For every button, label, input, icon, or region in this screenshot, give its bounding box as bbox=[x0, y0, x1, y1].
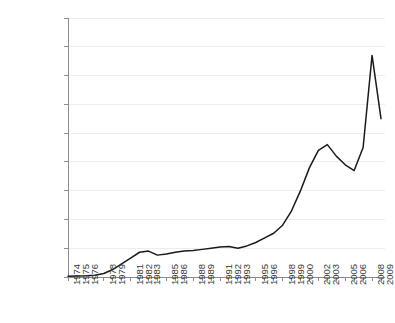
x-axis-tick-label: 1993 bbox=[242, 264, 252, 285]
x-axis-tick-label: 1979 bbox=[117, 264, 127, 285]
x-axis-tick-label: 2009 bbox=[385, 264, 395, 285]
x-axis-tick-label: 1983 bbox=[152, 264, 162, 285]
x-axis-tick-label: 1989 bbox=[206, 264, 216, 285]
x-axis-tick-label: 1976 bbox=[90, 264, 100, 285]
x-axis-tick-label: 1986 bbox=[179, 264, 189, 285]
x-axis-tick-label: 2006 bbox=[358, 264, 368, 285]
x-axis-tick-label: 2003 bbox=[331, 264, 341, 285]
x-axis-tick-label: 1996 bbox=[269, 264, 279, 285]
x-axis-tick-label: 2000 bbox=[305, 264, 315, 285]
